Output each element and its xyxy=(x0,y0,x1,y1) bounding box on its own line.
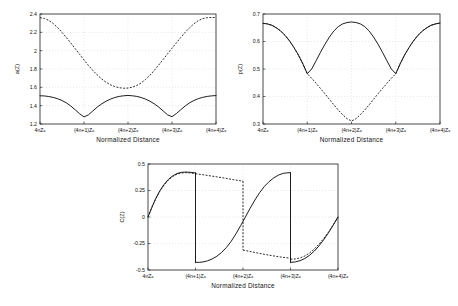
panel-b-xlabel: Normalized Distance xyxy=(320,136,384,143)
panel-c-series-dashed-plateau1 xyxy=(196,174,244,181)
panel-a-xtick-label: (4n+4)Zₐ xyxy=(206,127,226,133)
panel-a-ytick-label: 1.8 xyxy=(30,66,37,72)
chart-panel-a: 1.21.41.61.822.22.44nZₐ(4n+1)Zₐ(4n+2)Zₐ(… xyxy=(0,0,232,156)
panel-a-ytick-label: 2 xyxy=(34,48,37,54)
panel-c-series-dashed-plateau2 xyxy=(243,250,291,258)
panel-b-xtick-label: (4n+4)Zₐ xyxy=(430,127,450,133)
panel-c-ytick-label: 0.5 xyxy=(138,161,145,167)
panel-b-xtick-label: (4n+2)Zₐ xyxy=(341,127,361,133)
panel-b-ytick-label: 0.4 xyxy=(253,93,260,99)
panel-a-ytick-label: 2.2 xyxy=(30,29,37,35)
panel-a-ylabel: a(Z) xyxy=(14,64,20,74)
panel-a-svg: 1.21.41.61.822.22.44nZₐ(4n+1)Zₐ(4n+2)Zₐ(… xyxy=(0,0,232,156)
panel-c-ytick-label: 0.25 xyxy=(135,187,145,193)
panel-c-xtick-label: 4nZₐ xyxy=(143,273,154,279)
panel-a-xtick-label: (4n+3)Zₐ xyxy=(162,127,182,133)
panel-c-svg: -0.5-0.2500.250.54nZₐ(4n+1)Zₐ(4n+2)Zₐ(4n… xyxy=(110,152,350,306)
panel-c-xtick-label: (4n+3)Zₐ xyxy=(280,273,300,279)
panel-a-xtick-label: (4n+1)Zₐ xyxy=(74,127,94,133)
panel-c-xtick-label: (4n+1)Zₐ xyxy=(185,273,205,279)
panel-a-xtick-label: 4nZₐ xyxy=(35,127,46,133)
panel-c-series-dashed-seg3 xyxy=(291,217,339,259)
chart-panel-b: 0.30.40.50.60.74nZₐ(4n+1)Zₐ(4n+2)Zₐ(4n+3… xyxy=(228,0,458,156)
panel-b-ytick-label: 0.5 xyxy=(253,66,260,72)
panel-c-series-solid-seg1 xyxy=(148,172,196,217)
panel-a-ytick-label: 1.4 xyxy=(30,103,37,109)
panel-a-xlabel: Normalized Distance xyxy=(96,136,160,143)
chart-panel-c: -0.5-0.2500.250.54nZₐ(4n+1)Zₐ(4n+2)Zₐ(4n… xyxy=(110,152,350,306)
panel-b-xtick-label: (4n+1)Zₐ xyxy=(297,127,317,133)
panel-b-ytick-label: 0.6 xyxy=(253,38,260,44)
panel-c-xtick-label: (4n+4)Zₐ xyxy=(328,273,348,279)
panel-a-xtick-label: (4n+2)Zₐ xyxy=(118,127,138,133)
figure-canvas: 1.21.41.61.822.22.44nZₐ(4n+1)Zₐ(4n+2)Zₐ(… xyxy=(0,0,458,306)
panel-c-ytick-label: 0 xyxy=(142,214,145,220)
panel-b-ytick-label: 0.7 xyxy=(253,11,260,17)
panel-c-ylabel: C(Z) xyxy=(119,211,125,222)
panel-b-xtick-label: 4nZₐ xyxy=(258,127,269,133)
panel-a-ytick-label: 2.4 xyxy=(30,11,37,17)
panel-c-xlabel: Normalized Distance xyxy=(211,282,275,289)
panel-c-series-dashed-seg1 xyxy=(148,173,196,217)
panel-b-xtick-label: (4n+3)Zₐ xyxy=(386,127,406,133)
panel-c-series-solid-seg3 xyxy=(291,217,339,262)
panel-b-svg: 0.30.40.50.60.74nZₐ(4n+1)Zₐ(4n+2)Zₐ(4n+3… xyxy=(228,0,458,156)
panel-c-xtick-label: (4n+2)Zₐ xyxy=(233,273,253,279)
panel-c-ytick-label: -0.25 xyxy=(133,240,145,246)
panel-b-ylabel: p(Z) xyxy=(237,64,243,74)
panel-a-ytick-label: 1.6 xyxy=(30,84,37,90)
